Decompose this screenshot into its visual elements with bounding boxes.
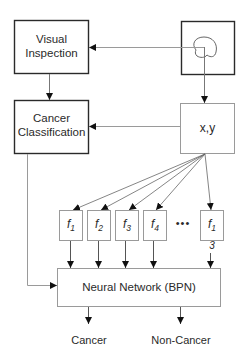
xy-label: x,y — [180, 121, 235, 135]
visual-inspection-label: Visual Inspection — [14, 32, 89, 60]
feature-f1-label: f1 — [59, 217, 83, 233]
cancer-classification-line1: Cancer — [14, 111, 89, 125]
feature-to-nn-arrows — [71, 241, 211, 268]
cancer-classification-line2: Classification — [14, 125, 89, 139]
output-cancer-label: Cancer — [60, 333, 118, 347]
feature-f13-label: f1 — [200, 217, 224, 233]
feature-boxes — [60, 211, 224, 241]
neural-network-label: Neural Network (BPN) — [57, 280, 221, 294]
visual-inspection-line2: Inspection — [14, 46, 89, 60]
arrow-classification-to-nn — [28, 154, 58, 286]
feature-fan-arrows — [73, 154, 211, 210]
feature-ellipsis: ••• — [168, 217, 198, 229]
feature-f13-subscript-wrap: 3 — [202, 240, 222, 251]
feature-f2-label: f2 — [87, 217, 111, 233]
feature-f4-label: f4 — [143, 217, 167, 233]
cancer-classification-label: Cancer Classification — [14, 111, 89, 139]
output-noncancer-label: Non-Cancer — [145, 333, 217, 347]
visual-inspection-line1: Visual — [14, 32, 89, 46]
feature-f3-label: f3 — [115, 217, 139, 233]
